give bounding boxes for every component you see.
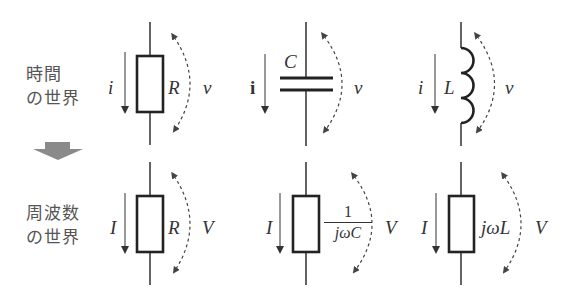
label-voltage-inductor: v — [505, 78, 513, 97]
caption-time-domain: 時間 の世界 — [26, 62, 80, 110]
label-phasor-voltage-inductor: V — [535, 218, 547, 237]
impedance-box-icon — [293, 196, 319, 252]
voltage-arrow-icon — [324, 36, 342, 132]
label-impedance-capacitor: 1 jωC — [324, 204, 372, 241]
label-voltage-resistor: v — [203, 78, 211, 97]
freq-resistor — [125, 162, 190, 285]
label-inductance: L — [444, 78, 455, 97]
label-current-inductor: i — [418, 78, 423, 97]
label-phasor-voltage-capacitor: V — [385, 218, 397, 237]
label-impedance-resistor: R — [168, 218, 180, 237]
inductor-coil-icon — [461, 48, 474, 123]
time-capacitor — [265, 22, 342, 146]
label-impedance-inductor: jωL — [481, 218, 510, 237]
label-phasor-current-inductor: I — [421, 218, 427, 237]
label-current-resistor: i — [108, 78, 113, 97]
impedance-box-icon — [137, 196, 163, 252]
label-voltage-capacitor: v — [354, 78, 362, 97]
circuit-diagram — [0, 0, 563, 301]
label-phasor-current-capacitor: I — [266, 218, 272, 237]
fraction-denominator: jωC — [335, 223, 361, 241]
resistor-icon — [137, 56, 163, 112]
label-capacitance: C — [284, 52, 297, 71]
label-current-capacitor: i — [250, 78, 255, 97]
time-resistor — [125, 22, 190, 145]
label-phasor-voltage-resistor: V — [202, 218, 214, 237]
voltage-arrow-icon — [477, 36, 495, 132]
down-block-arrow-icon — [33, 142, 83, 160]
label-phasor-current-resistor: I — [110, 218, 116, 237]
fraction-numerator: 1 — [344, 204, 352, 222]
label-resistance: R — [168, 78, 180, 97]
impedance-box-icon — [449, 196, 474, 252]
caption-frequency-domain: 周波数 の世界 — [26, 201, 80, 249]
